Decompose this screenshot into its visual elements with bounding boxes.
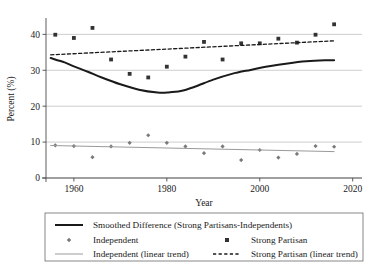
point-independent: [202, 151, 206, 155]
point-independent: [220, 144, 224, 148]
point-strong-partisan: [184, 55, 188, 59]
point-independent: [276, 155, 280, 159]
y-tick-label-40: 40: [31, 30, 41, 40]
legend-label-strong-partisan-trend: Strong Partisan (linear trend): [251, 249, 358, 259]
point-independent: [295, 152, 299, 156]
point-independent: [146, 133, 150, 137]
x-tick-label-2000: 2000: [250, 184, 269, 194]
y-tick-label-20: 20: [31, 102, 41, 112]
y-tick-label-10: 10: [31, 137, 41, 147]
legend-sample-strong-partisan: [225, 238, 229, 242]
point-strong-partisan: [314, 33, 318, 37]
line-independent-linear-trend: [51, 146, 334, 152]
axes: [42, 18, 362, 182]
series-smoothed-difference-strong-partisans-independents: [51, 58, 334, 93]
percent-by-year-chart: 0102030401960198020002020YearPercent (%)…: [0, 0, 372, 271]
chart-figure: 0102030401960198020002020YearPercent (%)…: [0, 0, 372, 271]
point-independent: [332, 145, 336, 149]
point-independent: [183, 144, 187, 148]
point-strong-partisan: [53, 33, 57, 37]
point-strong-partisan: [276, 37, 280, 41]
point-strong-partisan: [128, 72, 132, 76]
line-smoothed-difference-strong-partisans-independents: [51, 58, 334, 93]
point-strong-partisan: [332, 22, 336, 26]
point-strong-partisan: [221, 58, 225, 62]
series-strong-partisan-linear-trend: [51, 41, 334, 55]
x-tick-label-2020: 2020: [343, 184, 362, 194]
legend-label-independent-trend: Independent (linear trend): [93, 249, 189, 259]
legend-label-smoothed-difference: Smoothed Difference (Strong Partisans-In…: [93, 220, 292, 230]
series-independent: [53, 133, 336, 162]
series-independent-linear-trend: [51, 146, 334, 152]
point-strong-partisan: [91, 26, 95, 30]
legend-label-strong-partisan: Strong Partisan: [251, 235, 308, 245]
point-independent: [128, 141, 132, 145]
legend-label-independent: Independent: [93, 235, 139, 245]
point-strong-partisan: [109, 58, 113, 62]
x-tick-label-1980: 1980: [157, 184, 176, 194]
point-independent: [239, 158, 243, 162]
series-strong-partisan: [53, 22, 336, 79]
point-strong-partisan: [146, 76, 150, 80]
point-independent: [165, 141, 169, 145]
y-tick-label-0: 0: [35, 173, 40, 183]
y-axis-title: Percent (%): [6, 76, 17, 121]
point-independent: [90, 155, 94, 159]
point-strong-partisan: [72, 36, 76, 40]
point-independent: [313, 144, 317, 148]
line-strong-partisan-linear-trend: [51, 41, 334, 55]
y-axis-ticks: 010203040: [31, 30, 47, 184]
point-strong-partisan: [239, 41, 243, 45]
x-axis-ticks: 1960198020002020: [64, 178, 362, 194]
x-axis-title: Year: [195, 198, 213, 208]
point-strong-partisan: [165, 65, 169, 69]
x-tick-label-1960: 1960: [64, 184, 83, 194]
point-strong-partisan: [202, 40, 206, 44]
legend: Smoothed Difference (Strong Partisans-In…: [45, 213, 363, 261]
y-tick-label-30: 30: [31, 66, 41, 76]
